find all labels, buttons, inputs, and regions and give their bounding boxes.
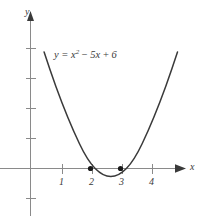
parabola-figure: y = x2 − 5x + 6 y x 1 2 3 4	[0, 0, 207, 216]
x-axis-label: x	[190, 162, 194, 172]
equation-annotation: y = x2 − 5x + 6	[54, 50, 117, 61]
x-tick-label-2: 2	[89, 177, 94, 187]
equation-minus: −	[79, 49, 90, 60]
plot-canvas	[0, 0, 207, 216]
x-tick-label-3: 3	[119, 177, 124, 187]
equation-term-5x: 5x	[90, 49, 100, 60]
equation-plus: +	[100, 49, 111, 60]
equation-constant: 6	[111, 49, 116, 60]
equation-equals: =	[59, 49, 71, 60]
x-tick-label-4: 4	[149, 177, 154, 187]
y-axis-label: y	[25, 7, 29, 17]
parabola-curve	[44, 52, 177, 177]
x-axis-arrowhead	[175, 164, 186, 172]
root-point-x3	[118, 166, 123, 171]
x-tick-label-1: 1	[59, 177, 64, 187]
root-point-x2	[88, 166, 93, 171]
